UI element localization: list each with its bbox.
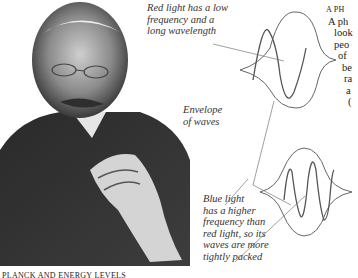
red-light-label: Red light has a low frequency and a long… bbox=[147, 2, 228, 37]
portrait-photo bbox=[0, 0, 190, 266]
envelope-label: Envelope of waves bbox=[183, 104, 222, 127]
sidebar-text: A PH A ph look peo of be ra a ( bbox=[326, 4, 353, 108]
blue-wave bbox=[284, 162, 334, 220]
red-wave bbox=[253, 30, 306, 99]
blue-wave-envelope bbox=[260, 148, 352, 236]
figure-caption: PLANCK AND ENERGY LEVELS bbox=[2, 271, 126, 278]
red-wave-envelope bbox=[240, 12, 336, 108]
sidebar-heading: A PH bbox=[326, 4, 353, 16]
blue-light-label: Blue light has a higher frequency than r… bbox=[203, 193, 269, 262]
